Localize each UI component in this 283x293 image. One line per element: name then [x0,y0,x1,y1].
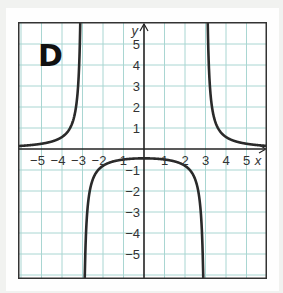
x-axis-label: x [254,153,262,168]
y-tick-label: 2 [133,100,140,115]
x-tick-label: −2 [92,153,107,168]
y-tick-label: −4 [125,226,140,241]
y-tick-label: 1 [133,121,140,136]
x-tick-label: −5 [30,153,45,168]
x-tick-label: 3 [202,153,209,168]
x-tick-label: 5 [243,153,250,168]
y-tick-label: −5 [125,247,140,262]
y-axis-label: y [131,23,140,38]
x-tick-label: 2 [181,153,188,168]
y-tick-label: 5 [133,37,140,52]
y-tick-label: 3 [133,79,140,94]
y-tick-label: −3 [125,205,140,220]
x-tick-label: −3 [71,153,86,168]
x-tick-label: 4 [222,153,229,168]
function-graph: −5−4−3−2−112345x54321−1−2−3−4−5y D [18,22,267,279]
y-tick-label: 4 [133,58,140,73]
y-tick-label: −2 [125,184,140,199]
y-tick-label: −1 [125,163,140,178]
x-tick-label: −4 [51,153,66,168]
curve-right-branch [206,22,267,146]
graph-frame: −5−4−3−2−112345x54321−1−2−3−4−5y D [18,22,267,279]
tick-labels: −5−4−3−2−112345x54321−1−2−3−4−5y [30,23,262,262]
x-tick-label: 1 [161,153,168,168]
panel-label: D [38,38,63,73]
